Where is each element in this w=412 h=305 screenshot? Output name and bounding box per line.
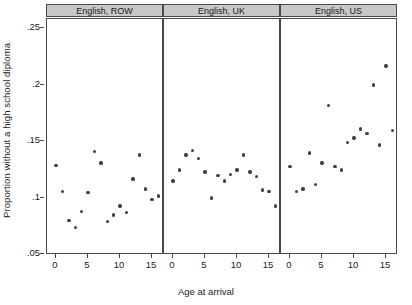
data-point [54, 164, 57, 167]
x-tick-label: 5 [77, 260, 97, 270]
data-point [359, 127, 362, 130]
data-point [314, 183, 317, 186]
data-point [391, 129, 394, 132]
data-point [178, 168, 181, 171]
data-point [210, 196, 213, 199]
data-point [352, 136, 355, 139]
panel-title: English, UK [163, 4, 280, 17]
x-tick-label: 10 [226, 260, 246, 270]
data-point [333, 165, 336, 168]
data-point [184, 153, 187, 156]
x-tick-mark [268, 254, 269, 258]
data-point [274, 204, 277, 207]
x-axis-title: Age at arrival [0, 286, 412, 297]
data-point [131, 177, 134, 180]
x-tick-mark [236, 254, 237, 258]
x-tick-mark [289, 254, 290, 258]
data-point [235, 168, 238, 171]
plot-area [280, 18, 397, 254]
data-point [301, 187, 304, 190]
data-point [372, 83, 375, 86]
plot-area [163, 18, 280, 254]
x-tick-mark [204, 254, 205, 258]
data-point [223, 179, 226, 182]
scatter-plot-figure: Proportion without a high school diploma… [0, 0, 412, 305]
y-axis-ticks: .05.1.15.2.25 [14, 0, 40, 305]
data-point [203, 170, 206, 173]
data-point [308, 151, 311, 154]
data-point [171, 179, 174, 182]
y-tick-mark [40, 197, 44, 198]
data-point [378, 143, 381, 146]
data-point [191, 149, 194, 152]
panel-title: English, ROW [46, 4, 163, 17]
panel-title: English, US [280, 4, 397, 17]
y-tick-mark [40, 84, 44, 85]
x-tick-label: 0 [279, 260, 299, 270]
data-point [118, 204, 121, 207]
data-point [261, 188, 264, 191]
x-tick-label: 0 [162, 260, 182, 270]
data-point [295, 190, 298, 193]
data-point [157, 194, 160, 197]
data-point [80, 210, 83, 213]
data-point [74, 226, 77, 229]
data-point [144, 187, 147, 190]
data-point [242, 153, 245, 156]
x-tick-mark [55, 254, 56, 258]
x-tick-label: 15 [258, 260, 278, 270]
x-tick-mark [119, 254, 120, 258]
plot-area [46, 18, 163, 254]
y-tick-mark [40, 27, 44, 28]
data-point [67, 219, 70, 222]
data-point [229, 173, 232, 176]
data-point [106, 220, 109, 223]
y-tick-label: .15 [18, 135, 40, 145]
x-tick-label: 15 [141, 260, 161, 270]
y-axis-title-text: Proportion without a high school diploma [2, 42, 13, 217]
y-tick-label: .1 [18, 192, 40, 202]
data-point [327, 104, 330, 107]
x-tick-mark [87, 254, 88, 258]
y-axis-title: Proportion without a high school diploma [0, 0, 14, 260]
x-tick-label: 15 [375, 260, 395, 270]
y-tick-mark [40, 140, 44, 141]
data-point [93, 150, 96, 153]
data-point [248, 170, 251, 173]
x-tick-label: 5 [194, 260, 214, 270]
data-point [112, 213, 115, 216]
data-point [99, 161, 102, 164]
data-point [138, 153, 141, 156]
x-tick-label: 5 [311, 260, 331, 270]
y-tick-label: .2 [18, 79, 40, 89]
y-tick-mark [40, 253, 44, 254]
data-point [216, 174, 219, 177]
data-point [267, 190, 270, 193]
x-tick-mark [151, 254, 152, 258]
y-tick-label: .25 [18, 22, 40, 32]
x-tick-mark [172, 254, 173, 258]
x-tick-label: 10 [343, 260, 363, 270]
data-point [61, 190, 64, 193]
data-point [346, 141, 349, 144]
data-point [125, 211, 128, 214]
x-tick-mark [385, 254, 386, 258]
data-point [320, 161, 323, 164]
x-tick-label: 10 [109, 260, 129, 270]
x-tick-mark [353, 254, 354, 258]
x-tick-label: 0 [45, 260, 65, 270]
data-point [288, 165, 291, 168]
data-point [197, 157, 200, 160]
x-tick-mark [321, 254, 322, 258]
y-tick-label: .05 [18, 248, 40, 258]
data-point [365, 132, 368, 135]
data-point [86, 191, 89, 194]
data-point [340, 168, 343, 171]
data-point [384, 64, 387, 67]
data-point [255, 175, 258, 178]
data-point [150, 198, 153, 201]
